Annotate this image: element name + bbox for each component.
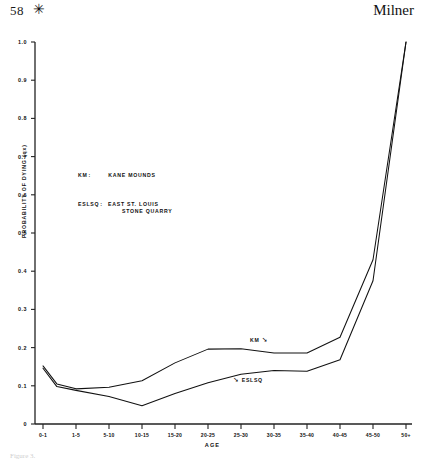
- x-axis-tick-label: 5-10: [103, 432, 114, 438]
- figure-caption: Figure 3.: [10, 452, 35, 460]
- legend-key-eslsq: ESLSQ: [78, 201, 99, 208]
- x-axis-tick-label: 35-40: [300, 432, 314, 438]
- series-callout-eslsq-label: ESLSQ: [242, 377, 263, 383]
- x-axis-tick-label: 20-25: [201, 432, 215, 438]
- chart-legend: KM: KANE MOUNDS ESLSQ: EAST ST. LOUIS ST…: [78, 172, 173, 208]
- running-head-author: Milner: [373, 2, 414, 19]
- legend-item-km: KM: KANE MOUNDS: [78, 172, 173, 179]
- x-axis-tick-label: 45-50: [366, 432, 380, 438]
- legend-separator-eslsq: :: [99, 201, 103, 208]
- x-axis-title: AGE: [0, 442, 425, 448]
- x-axis-tick-label: 0-1: [39, 432, 47, 438]
- arrow-down-left-icon: ➘: [233, 376, 240, 384]
- x-axis-tick-label: 1-5: [72, 432, 80, 438]
- legend-description-km: KANE MOUNDS: [108, 172, 155, 179]
- page-header: 58 ✳ Milner: [0, 0, 425, 28]
- asterisk-icon: ✳: [33, 2, 45, 16]
- series-callout-km: KM ➘: [250, 337, 268, 344]
- line-chart-plot-area: [0, 28, 425, 457]
- arrow-down-right-icon: ➘: [262, 336, 269, 344]
- x-axis-tick-label: 40-45: [333, 432, 347, 438]
- y-axis-tick-label: 0.9: [5, 77, 27, 83]
- series-line-eslsq: [43, 42, 406, 406]
- series-callout-eslsq: ➘ ESLSQ: [233, 377, 263, 384]
- figure-survivorship-chart: 00.10.20.30.40.50.60.70.80.91.0 0-11-55-…: [0, 28, 425, 457]
- y-axis-tick-label: 0: [5, 421, 27, 427]
- legend-item-eslsq: ESLSQ: EAST ST. LOUIS STONE QUARRY: [78, 201, 173, 208]
- y-axis-tick-label: 0.2: [5, 345, 27, 351]
- x-axis-tick-label: 15-20: [168, 432, 182, 438]
- x-axis-tick-label: 10-15: [135, 432, 149, 438]
- page-number: 58: [10, 3, 24, 19]
- x-axis-tick-label: 30-35: [267, 432, 281, 438]
- y-axis-tick-label: 0.3: [5, 306, 27, 312]
- x-axis-ticks: [43, 424, 406, 429]
- y-axis-tick-label: 0.4: [5, 268, 27, 274]
- legend-key-km: KM: [78, 172, 88, 179]
- legend-description-eslsq-line1: EAST ST. LOUIS: [108, 201, 159, 208]
- series-callout-km-label: KM: [250, 337, 259, 343]
- x-axis-tick-label: 50+: [401, 432, 410, 438]
- y-axis-tick-label: 1.0: [5, 39, 27, 45]
- legend-separator-km: :: [88, 172, 92, 179]
- x-axis-tick-label: 25-30: [234, 432, 248, 438]
- y-axis-title: PROBABILITY OF DYING (qx): [21, 121, 27, 261]
- legend-description-eslsq-line2: STONE QUARRY: [122, 208, 173, 215]
- series-line-km: [43, 42, 406, 389]
- y-axis-tick-label: 0.1: [5, 383, 27, 389]
